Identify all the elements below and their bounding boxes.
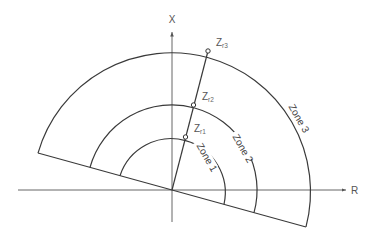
- label-zr3: Zr3: [216, 37, 228, 49]
- point-zr1: [183, 135, 187, 139]
- r-axis-label: R: [351, 185, 358, 196]
- label-zr2: Zr2: [202, 91, 214, 103]
- label-zr1: Zr1: [194, 123, 206, 135]
- radial-line: [172, 51, 208, 190]
- zone-3-arc: [38, 53, 311, 227]
- point-zr3: [206, 49, 210, 53]
- point-zr2: [191, 103, 195, 107]
- zone-diagram: Zone 1 Zone 2 Zone 3 Zr1 Zr2 Zr3 X R: [0, 0, 376, 236]
- x-axis-label: X: [169, 14, 176, 25]
- zone-2-arc: [90, 105, 257, 213]
